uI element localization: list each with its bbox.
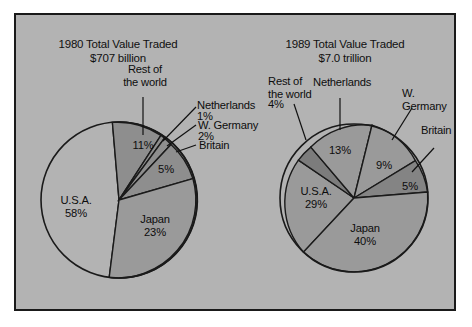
- value-1989-rest-of-the-world: 4%: [268, 98, 284, 111]
- chart-title-1980-line1: 1980 Total Value Traded: [28, 38, 208, 52]
- label-1980-rest-of-the-world: Rest of the world: [117, 63, 173, 88]
- label-1989-japan: Japan 40%: [341, 222, 389, 247]
- label-1989-britain: Britain: [421, 124, 451, 137]
- label-1980-britain: Britain: [199, 139, 229, 152]
- label-1989-netherlands: Netherlands: [313, 76, 371, 89]
- label-1980-japan: Japan 23%: [131, 213, 179, 238]
- label-1989-usa: U.S.A. 29%: [290, 185, 342, 210]
- value-1989-britain: 5%: [396, 180, 424, 193]
- label-1980-usa: U.S.A. 58%: [50, 194, 102, 219]
- value-1989-w-germany: 9%: [370, 159, 398, 172]
- chart-title-1989-line2: $7.0 trillion: [255, 52, 435, 66]
- value-1980-rest-of-the-world: 11%: [126, 139, 160, 152]
- value-1989-netherlands: 13%: [324, 144, 356, 157]
- chart-title-1989-line1: 1989 Total Value Traded: [255, 38, 435, 52]
- chart-title-1989: 1989 Total Value Traded $7.0 trillion: [255, 38, 435, 65]
- figure-canvas: 1980 Total Value Traded $707 billion 198…: [0, 0, 472, 327]
- value-1980-britain: 5%: [152, 163, 180, 176]
- label-1989-rest-of-the-world: Rest of the world: [268, 75, 312, 100]
- chart-title-1980: 1980 Total Value Traded $707 billion: [28, 38, 208, 65]
- label-1989-w-germany: W. Germany: [402, 87, 447, 112]
